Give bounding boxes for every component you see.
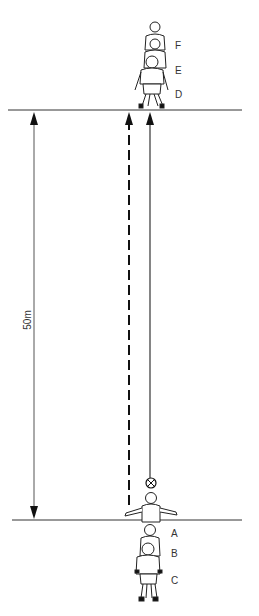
player-label-A: A <box>171 528 178 539</box>
player-label-F: F <box>175 40 181 51</box>
player-label-E: E <box>175 65 182 76</box>
player-figure-A <box>125 493 177 523</box>
player-group-bottom <box>125 493 177 602</box>
distance-label: 50m <box>22 310 33 329</box>
drill-diagram: 50m <box>0 0 259 616</box>
player-label-C: C <box>171 575 178 586</box>
player-group-top <box>135 22 168 108</box>
dashed-run-arrow <box>125 112 133 505</box>
football-icon <box>146 478 156 488</box>
player-label-D: D <box>175 89 182 100</box>
ball-path-arrow <box>146 112 154 478</box>
player-label-B: B <box>171 548 178 559</box>
